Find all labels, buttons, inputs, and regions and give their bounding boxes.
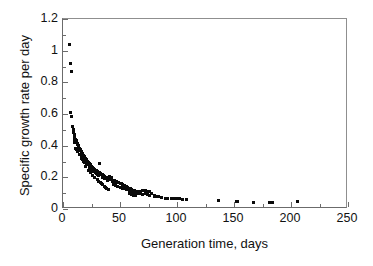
x-axis-minor-tick-mark xyxy=(263,204,264,207)
y-axis-minor-tick-mark xyxy=(63,35,66,36)
x-axis-minor-tick-mark xyxy=(206,204,207,207)
x-axis-tick-label: 150 xyxy=(203,212,263,225)
data-point xyxy=(94,171,97,174)
data-point xyxy=(69,62,72,65)
data-point xyxy=(75,148,78,151)
data-point xyxy=(160,196,163,199)
x-axis-tick-mark xyxy=(177,202,178,207)
data-point xyxy=(153,195,156,198)
x-axis-minor-tick-mark xyxy=(149,204,150,207)
x-axis-tick-label: 100 xyxy=(146,212,206,225)
y-axis-tick-mark xyxy=(63,19,68,20)
y-axis-minor-tick-mark xyxy=(63,67,66,68)
x-axis-tick-label: 0 xyxy=(32,212,92,225)
data-point xyxy=(271,201,274,204)
data-point xyxy=(70,115,73,118)
data-point xyxy=(73,141,76,144)
x-axis-tick-label: 250 xyxy=(317,212,373,225)
x-axis-minor-tick-mark xyxy=(320,204,321,207)
data-point xyxy=(296,200,299,203)
x-axis-tick-label: 50 xyxy=(89,212,149,225)
x-axis-minor-tick-mark xyxy=(92,204,93,207)
x-axis-tick-mark xyxy=(348,202,349,207)
data-point xyxy=(83,161,86,164)
data-point xyxy=(217,199,220,202)
data-point xyxy=(106,179,109,182)
y-axis-minor-tick-mark xyxy=(63,130,66,131)
scatter-chart-figure: 00.20.40.60.811.2 050100150200250 Genera… xyxy=(0,0,373,266)
data-point xyxy=(78,153,81,156)
x-axis-title: Generation time, days xyxy=(62,236,347,251)
data-point xyxy=(80,157,83,160)
data-point xyxy=(111,180,114,183)
x-axis-tick-labels: 050100150200250 xyxy=(62,212,347,230)
plot-area xyxy=(62,18,347,208)
data-point xyxy=(148,194,151,197)
y-axis-tick-mark xyxy=(63,82,68,83)
data-point xyxy=(236,200,239,203)
x-axis-tick-mark xyxy=(120,202,121,207)
y-axis-minor-tick-mark xyxy=(63,162,66,163)
y-axis-tick-mark xyxy=(63,146,68,147)
data-point xyxy=(107,188,110,191)
data-point xyxy=(252,201,255,204)
x-axis-tick-mark xyxy=(291,202,292,207)
data-point xyxy=(98,162,101,165)
y-axis-tick-mark xyxy=(63,209,68,210)
y-axis-minor-tick-mark xyxy=(63,193,66,194)
data-point xyxy=(73,138,76,141)
data-point xyxy=(134,194,137,197)
data-point xyxy=(70,70,73,73)
data-point xyxy=(185,198,188,201)
x-axis-tick-mark xyxy=(63,202,64,207)
y-axis-tick-mark xyxy=(63,114,68,115)
x-axis-tick-label: 200 xyxy=(260,212,320,225)
y-axis-title: Specific growth rate per day xyxy=(17,6,32,226)
y-axis-tick-mark xyxy=(63,51,68,52)
data-point xyxy=(128,192,131,195)
y-axis-minor-tick-mark xyxy=(63,98,66,99)
y-axis-tick-mark xyxy=(63,177,68,178)
data-point xyxy=(69,111,72,114)
data-point xyxy=(110,176,113,179)
data-point xyxy=(68,43,71,46)
